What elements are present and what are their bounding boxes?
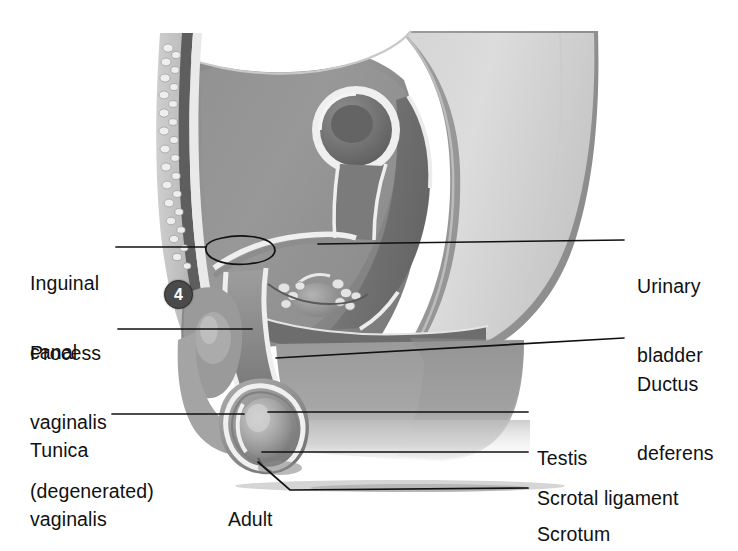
label-urinary-bladder-line1: Urinary bbox=[637, 275, 703, 298]
label-ductus-deferens-line1: Ductus bbox=[637, 373, 714, 396]
scrotum-testis-group bbox=[219, 379, 309, 476]
urinary-bladder bbox=[312, 86, 400, 174]
label-tunica-vaginalis-line1: Tunica bbox=[30, 439, 107, 462]
figure-number-marker: 4 bbox=[164, 280, 193, 309]
label-scrotum: Scrotum bbox=[537, 477, 610, 551]
thigh-region bbox=[272, 338, 530, 466]
anatomy-figure: Inguinal canal Process vaginalis (degene… bbox=[0, 0, 738, 551]
label-tunica-vaginalis: Tunica vaginalis bbox=[30, 393, 107, 551]
label-process-vaginalis-line1: Process bbox=[30, 342, 154, 365]
gluteal-region bbox=[400, 31, 598, 358]
figure-caption: Adult bbox=[228, 508, 272, 531]
label-tunica-vaginalis-line2: vaginalis bbox=[30, 508, 107, 531]
label-inguinal-canal-line1: Inguinal bbox=[30, 272, 99, 295]
label-scrotum-line1: Scrotum bbox=[537, 523, 610, 546]
